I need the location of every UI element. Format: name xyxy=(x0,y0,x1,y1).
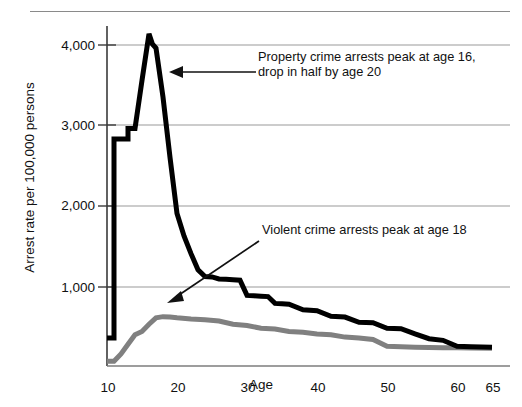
gridlines xyxy=(107,45,510,287)
series-line-property-crime xyxy=(107,34,492,347)
chart-figure: Arrest rate per 100,000 persons Age 4,00… xyxy=(0,0,522,407)
plot-area xyxy=(0,0,522,407)
annotation-arrow-property xyxy=(169,66,256,78)
